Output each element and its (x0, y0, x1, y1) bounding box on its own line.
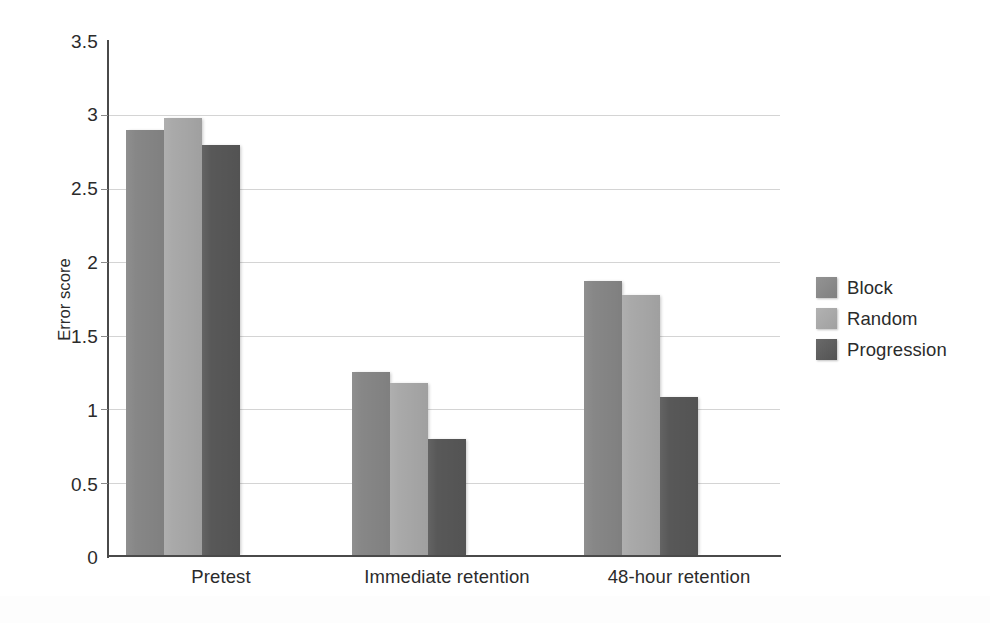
x-axis-line (107, 555, 781, 557)
y-tick-mark-2_5 (101, 189, 108, 190)
y-tick-label-0_5: 0.5 (71, 474, 98, 496)
bar-48hour-progression (660, 397, 698, 556)
bar-immediate-progression (428, 439, 466, 557)
y-axis-line (107, 40, 109, 558)
legend-label-random: Random (847, 308, 918, 330)
y-tick-label-0: 0 (87, 547, 98, 569)
y-tick-mark-0_5 (101, 483, 108, 484)
y-tick-label-1_5: 1.5 (71, 326, 98, 348)
bar-immediate-block (352, 372, 390, 556)
y-axis-title: Error score (55, 230, 74, 370)
x-category-label-pretest: Pretest (108, 566, 334, 588)
y-tick-mark-3 (101, 115, 108, 116)
bar-group-pretest (108, 42, 334, 556)
bar-pretest-random (164, 118, 202, 556)
legend-item-random: Random (816, 303, 947, 334)
x-category-label-immediate: Immediate retention (334, 566, 560, 588)
y-tick-mark-1_5 (101, 336, 108, 337)
plot-area (108, 42, 780, 556)
legend-swatch-block (816, 277, 837, 298)
legend-swatch-progression (816, 339, 837, 360)
bar-group-immediate-retention (334, 42, 560, 556)
legend-label-progression: Progression (847, 339, 947, 361)
legend-label-block: Block (847, 277, 893, 299)
y-tick-label-3_5: 3.5 (71, 31, 98, 53)
y-tick-mark-2 (101, 262, 108, 263)
bar-immediate-random (390, 383, 428, 556)
bar-48hour-random (622, 295, 660, 556)
y-tick-label-2: 2 (87, 252, 98, 274)
chart-legend: Block Random Progression (816, 272, 947, 365)
legend-swatch-random (816, 308, 837, 329)
y-tick-mark-1 (101, 409, 108, 410)
bar-pretest-block (126, 130, 164, 556)
y-tick-label-1: 1 (87, 400, 98, 422)
bar-chart-figure: 3.5 3 2.5 2 1.5 1 0.5 0 Error score Pret… (0, 0, 990, 623)
legend-item-progression: Progression (816, 334, 947, 365)
y-tick-label-2_5: 2.5 (71, 178, 98, 200)
legend-item-block: Block (816, 272, 947, 303)
page-bottom-margin (0, 596, 990, 623)
y-tick-label-3: 3 (87, 104, 98, 126)
bar-group-48hour-retention (566, 42, 792, 556)
bar-48hour-block (584, 281, 622, 556)
bar-pretest-progression (202, 145, 240, 556)
x-category-label-48hour: 48-hour retention (566, 566, 792, 588)
